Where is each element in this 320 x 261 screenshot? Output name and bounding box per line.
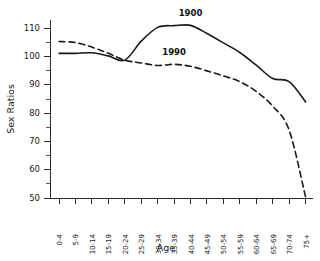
- sex-ratios-line-chart: 5060708090100110 Sex Ratios 0-45-910-141…: [0, 0, 320, 261]
- x-tick-label: 70-74: [286, 233, 294, 254]
- y-tick-label: 100: [24, 51, 40, 61]
- x-tick-group: [59, 198, 306, 204]
- series-annotation-1990: 1990: [162, 47, 186, 57]
- x-axis-title: Age: [157, 242, 176, 253]
- x-tick-label: 45-49: [204, 234, 212, 254]
- y-tick-label: 70: [29, 136, 40, 146]
- series-annotation-1900: 1900: [179, 8, 203, 18]
- x-tick-label: 25-29: [138, 234, 146, 254]
- x-tick-label: 60-64: [253, 233, 261, 254]
- y-tick-label-group: 5060708090100110: [24, 23, 40, 203]
- series-line-1900: [59, 25, 306, 102]
- chart-canvas: 5060708090100110 Sex Ratios 0-45-910-141…: [0, 0, 320, 261]
- x-tick-label-group: 0-45-910-1415-1920-2425-2930-3435-3940-4…: [56, 233, 311, 254]
- y-tick-label: 50: [29, 193, 40, 203]
- x-tick-label: 15-19: [105, 234, 113, 254]
- y-tick-label: 90: [29, 79, 40, 89]
- y-axis-title: Sex Ratios: [5, 84, 16, 134]
- x-tick-label: 50-54: [220, 233, 228, 254]
- y-tick-group: [44, 28, 50, 198]
- x-tick-label: 10-14: [89, 233, 97, 254]
- x-tick-label: 20-24: [122, 233, 130, 254]
- x-tick-label: 75+: [303, 234, 311, 249]
- y-tick-label: 60: [29, 164, 40, 174]
- series-line-1990: [59, 41, 306, 197]
- y-tick-label: 80: [29, 108, 40, 118]
- x-tick-label: 5-9: [72, 234, 80, 245]
- x-axis-group: 0-45-910-1415-1920-2425-2930-3435-3940-4…: [50, 198, 313, 254]
- y-tick-label: 110: [24, 23, 40, 33]
- x-tick-label: 0-4: [56, 233, 64, 245]
- y-axis-group: 5060708090100110 Sex Ratios: [5, 20, 50, 203]
- x-tick-label: 65-69: [270, 234, 278, 254]
- x-tick-label: 40-44: [188, 233, 196, 254]
- annotation-group: 19001990: [162, 8, 202, 58]
- x-tick-label: 55-59: [237, 234, 245, 254]
